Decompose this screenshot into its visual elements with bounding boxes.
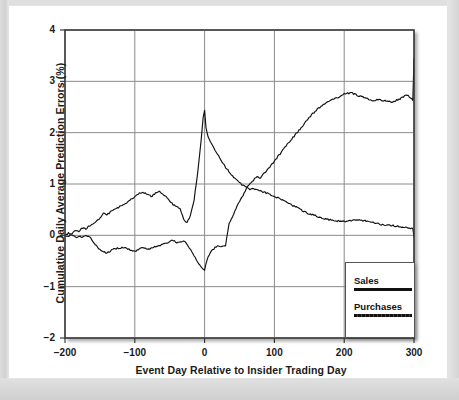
x-axis-title: Event Day Relative to Insider Trading Da… [66, 364, 416, 376]
y-tick-label: 3 [29, 75, 55, 86]
x-tick-label: 0 [183, 347, 227, 358]
legend-swatch-purchases [354, 314, 412, 317]
y-tick-label: 2 [29, 127, 55, 138]
x-tick-label: 200 [322, 347, 366, 358]
y-tick-label: −1 [29, 281, 55, 292]
legend-entry-sales[interactable]: Sales [354, 275, 412, 291]
y-tick-label: 4 [29, 24, 55, 35]
x-tick-label: 300 [392, 347, 436, 358]
legend-label-purchases: Purchases [354, 301, 412, 312]
chart-legend[interactable]: Sales Purchases [345, 262, 415, 338]
legend-label-sales: Sales [354, 275, 412, 286]
y-tick-label: −2 [29, 332, 55, 343]
screenshot-root: −200−1000100200300 −2−101234 Event Day R… [0, 0, 459, 400]
y-tick-label: 1 [29, 178, 55, 189]
legend-entry-purchases[interactable]: Purchases [354, 301, 412, 317]
x-tick-label: 100 [252, 347, 296, 358]
x-tick-marks [65, 338, 414, 343]
line-chart: −200−1000100200300 −2−101234 Event Day R… [0, 0, 459, 400]
x-tick-label: −200 [43, 347, 87, 358]
x-tick-label: −100 [113, 347, 157, 358]
y-axis-title: Cumulative Daily Average Prediction Erro… [54, 33, 66, 333]
chart-canvas [0, 0, 459, 400]
y-tick-label: 0 [29, 229, 55, 240]
legend-swatch-sales [354, 288, 412, 291]
